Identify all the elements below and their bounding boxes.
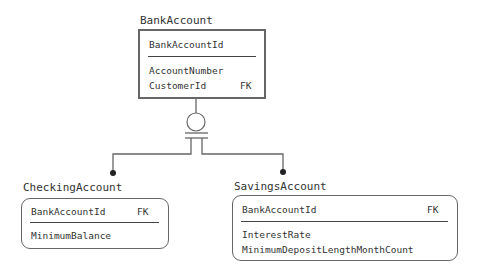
savings-account-attr: MinimumDepositLengthMonthCount: [242, 244, 414, 255]
savings-account-entity: BankAccountId FK InterestRate MinimumDep…: [232, 195, 458, 261]
checking-account-attr: MinimumBalance: [31, 230, 111, 241]
bank-account-title: BankAccount: [140, 14, 213, 27]
savings-account-attr: InterestRate: [242, 229, 311, 240]
checking-dot-icon: [110, 170, 116, 176]
savings-account-title: SavingsAccount: [234, 180, 327, 193]
savings-dot-icon: [280, 169, 286, 175]
fk-label: FK: [240, 80, 251, 91]
checking-link-line: [113, 138, 191, 172]
checking-account-entity: BankAccountId FK MinimumBalance: [21, 198, 169, 249]
category-circle-icon: [187, 113, 205, 131]
bank-account-entity: BankAccountId AccountNumber CustomerId F…: [138, 29, 266, 99]
checking-account-title: CheckingAccount: [23, 181, 122, 194]
savings-link-line: [202, 138, 283, 171]
savings-account-divider: [241, 221, 448, 222]
bank-account-attr: AccountNumber: [149, 65, 223, 76]
checking-account-key-attr: BankAccountId: [31, 206, 105, 217]
fk-label: FK: [427, 204, 438, 215]
bank-account-key-attr: BankAccountId: [149, 39, 223, 50]
bank-account-attr: CustomerId: [149, 80, 206, 91]
fk-label: FK: [137, 206, 148, 217]
bank-account-divider: [148, 56, 256, 57]
checking-account-divider: [30, 222, 159, 223]
savings-account-key-attr: BankAccountId: [242, 204, 316, 215]
